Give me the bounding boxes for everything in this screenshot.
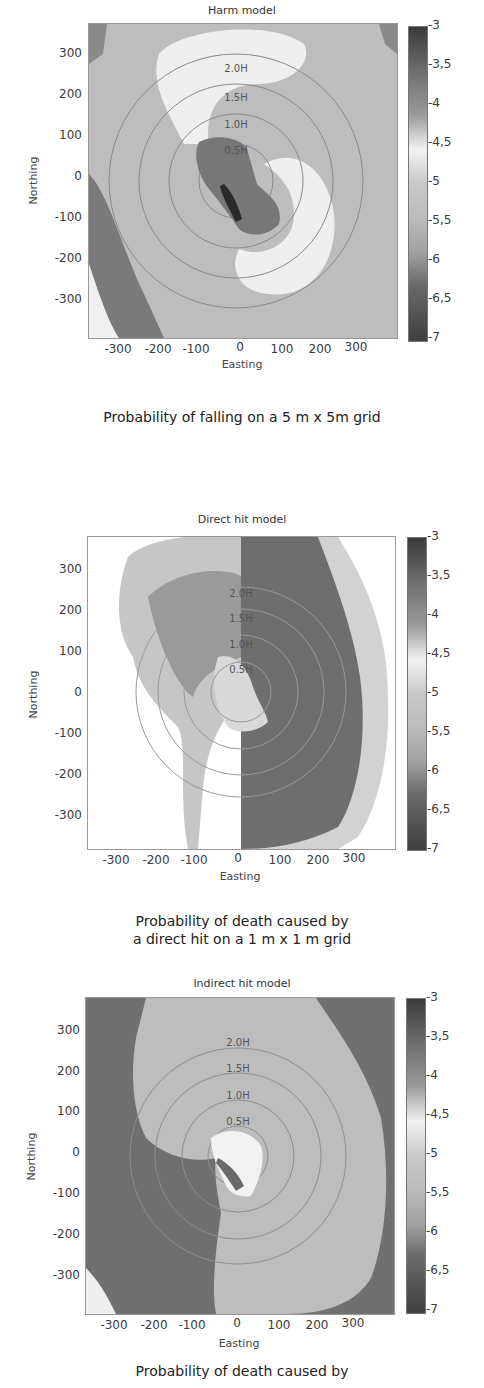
colorbar-tick: -4	[428, 96, 440, 110]
harm-model-x-label: Easting	[222, 358, 263, 371]
harm-model-y-label: Northing	[27, 157, 40, 205]
y-tick: -300	[34, 292, 82, 306]
indirect-hit-colorbar	[406, 998, 426, 1314]
y-tick: -200	[32, 1227, 80, 1241]
y-tick: 200	[32, 1064, 80, 1078]
x-tick: 200	[309, 342, 332, 356]
colorbar-tick: -6	[428, 252, 440, 266]
indirect-hit-caption: Probability of death caused by	[0, 1362, 484, 1380]
ring-label-1-0h: 1.0H	[229, 639, 252, 650]
y-tick: 200	[34, 603, 82, 617]
x-tick: 200	[307, 853, 330, 867]
x-tick: 100	[268, 1318, 291, 1332]
x-tick: -100	[182, 342, 209, 356]
ring-label-0-5h: 0.5H	[226, 1116, 249, 1127]
indirect-hit-title: Indirect hit model	[88, 977, 396, 990]
x-tick: 0	[236, 340, 244, 354]
y-tick: 0	[34, 169, 82, 183]
x-tick: -300	[102, 853, 129, 867]
y-tick: 0	[34, 685, 82, 699]
colorbar-tick: -6	[427, 763, 439, 777]
x-tick: 200	[306, 1318, 329, 1332]
colorbar-tick: -5	[427, 685, 439, 699]
colorbar-tick: -3,5	[428, 57, 451, 71]
harm-model-title: Harm model	[88, 4, 396, 17]
colorbar-tick: -4,5	[428, 135, 451, 149]
direct-hit-heatmap: 2.0H 1.5H 1.0H 0.5H	[87, 536, 396, 850]
y-tick: -200	[34, 767, 82, 781]
ring-label-0-5h: 0.5H	[224, 145, 247, 156]
colorbar-tick: -3	[427, 529, 439, 543]
colorbar-tick: -6,5	[427, 802, 450, 816]
ring-label-1-0h: 1.0H	[224, 119, 247, 130]
direct-hit-title: Direct hit model	[88, 513, 396, 526]
colorbar-tick: -5,5	[428, 213, 451, 227]
x-tick: 300	[343, 851, 366, 865]
direct-hit-x-label: Easting	[220, 870, 261, 883]
colorbar-tick: -5	[428, 174, 440, 188]
colorbar-tick: -4	[426, 1068, 438, 1082]
y-tick: 300	[34, 562, 82, 576]
ring-label-1-5h: 1.5H	[229, 613, 252, 624]
colorbar-tick: -3,5	[427, 568, 450, 582]
x-tick: 100	[271, 342, 294, 356]
ring-label-1-5h: 1.5H	[226, 1063, 249, 1074]
y-tick: 100	[32, 1104, 80, 1118]
direct-hit-y-label: Northing	[27, 671, 40, 719]
indirect-hit-x-label: Easting	[219, 1337, 260, 1350]
colorbar-tick: -7	[428, 330, 440, 344]
y-tick: -300	[32, 1268, 80, 1282]
colorbar-tick: -6,5	[426, 1263, 449, 1277]
indirect-hit-heatmap: 2.0H 1.5H 1.0H 0.5H	[85, 997, 395, 1315]
y-tick: -100	[34, 726, 82, 740]
y-tick: -300	[34, 808, 82, 822]
colorbar-tick: -5,5	[427, 724, 450, 738]
colorbar-tick: -5,5	[426, 1185, 449, 1199]
y-tick: 200	[34, 87, 82, 101]
colorbar-tick: -6	[426, 1224, 438, 1238]
caption-line: a direct hit on a 1 m x 1 m grid	[0, 930, 484, 948]
x-tick: -200	[140, 1318, 167, 1332]
colorbar-tick: -4	[427, 607, 439, 621]
direct-hit-colorbar	[407, 537, 427, 851]
ring-label-1-0h: 1.0H	[226, 1090, 249, 1101]
y-tick: 100	[34, 128, 82, 142]
x-tick: 0	[233, 1316, 241, 1330]
x-tick: -100	[180, 853, 207, 867]
x-tick: 300	[342, 1316, 365, 1330]
y-tick: 300	[34, 46, 82, 60]
colorbar-tick: -6,5	[428, 291, 451, 305]
y-tick: 300	[32, 1023, 80, 1037]
x-tick: -200	[144, 342, 171, 356]
colorbar-tick: -4,5	[427, 646, 450, 660]
x-tick: -300	[104, 342, 131, 356]
ring-label-2-0h: 2.0H	[229, 588, 252, 599]
colorbar-tick: -7	[427, 841, 439, 855]
colorbar-tick: -3	[426, 990, 438, 1004]
x-tick: 300	[345, 340, 368, 354]
x-tick: 100	[269, 853, 292, 867]
y-tick: -100	[32, 1186, 80, 1200]
y-tick: 0	[32, 1145, 80, 1159]
harm-model-caption: Probability of falling on a 5 m x 5m gri…	[0, 408, 484, 426]
y-tick: -100	[34, 210, 82, 224]
colorbar-tick: -3	[428, 18, 440, 32]
x-tick: -100	[178, 1318, 205, 1332]
harm-model-colorbar	[408, 26, 428, 342]
ring-label-1-5h: 1.5H	[224, 92, 247, 103]
indirect-hit-y-label: Northing	[25, 1133, 38, 1181]
caption-line: Probability of death caused by	[0, 912, 484, 930]
y-tick: 100	[34, 644, 82, 658]
colorbar-tick: -3,5	[426, 1029, 449, 1043]
x-tick: 0	[234, 851, 242, 865]
colorbar-tick: -4,5	[426, 1107, 449, 1121]
colorbar-tick: -5	[426, 1146, 438, 1160]
x-tick: -300	[100, 1318, 127, 1332]
ring-label-2-0h: 2.0H	[224, 63, 247, 74]
y-tick: -200	[34, 251, 82, 265]
harm-model-heatmap: 2.0H 1.5H 1.0H 0.5H	[88, 23, 398, 339]
ring-label-2-0h: 2.0H	[226, 1037, 249, 1048]
colorbar-tick: -7	[426, 1302, 438, 1316]
direct-hit-caption: Probability of death caused by a direct …	[0, 912, 484, 948]
x-tick: -200	[142, 853, 169, 867]
